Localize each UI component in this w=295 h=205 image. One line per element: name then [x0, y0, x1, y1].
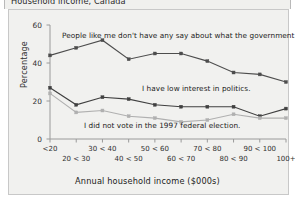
series-line-0 — [50, 40, 286, 82]
data-point-marker — [285, 107, 288, 110]
data-point-marker — [232, 71, 235, 74]
data-point-marker — [285, 117, 288, 120]
data-point-marker — [75, 111, 78, 114]
data-point-marker — [127, 58, 130, 61]
chart-screenshot: Household income, Canada Percentage 0 20… — [0, 0, 295, 205]
x-tick-label: 90 < 100 — [243, 145, 276, 153]
data-point-marker — [127, 115, 130, 118]
data-point-marker — [153, 117, 156, 120]
data-point-marker — [75, 103, 78, 106]
plot-area: Percentage 0 20 40 60 <2020 < 3030 < 404… — [0, 0, 295, 205]
data-point-marker — [285, 81, 288, 84]
x-tick-label: 60 < 70 — [167, 155, 195, 163]
data-point-marker — [232, 113, 235, 116]
x-tick-label: <20 — [43, 145, 58, 153]
x-tick-label: 80 < 90 — [219, 155, 247, 163]
data-point-marker — [180, 105, 183, 108]
data-point-marker — [153, 52, 156, 55]
data-point-marker — [49, 86, 52, 89]
data-point-marker — [258, 117, 261, 120]
x-tick-label: 70 < 80 — [193, 145, 221, 153]
data-point-marker — [101, 109, 104, 112]
data-point-marker — [49, 92, 52, 95]
data-point-marker — [101, 96, 104, 99]
series-annotation-0: People like me don't have any say about … — [62, 31, 295, 40]
series-annotation-2: I did not vote in the 1997 federal elect… — [84, 121, 240, 130]
x-tick-label: 20 < 30 — [62, 155, 90, 163]
data-point-marker — [153, 103, 156, 106]
data-point-marker — [258, 73, 261, 76]
x-tick-label: 40 < 50 — [115, 155, 143, 163]
data-point-marker — [127, 98, 130, 101]
data-point-marker — [232, 105, 235, 108]
x-axis-label: Annual household income ($000s) — [0, 176, 295, 186]
data-point-marker — [206, 60, 209, 63]
data-point-marker — [206, 105, 209, 108]
data-point-marker — [75, 46, 78, 49]
series-line-2 — [50, 93, 286, 122]
x-tick-label: 50 < 60 — [141, 145, 169, 153]
x-tick-label: 30 < 40 — [88, 145, 116, 153]
data-point-marker — [180, 52, 183, 55]
series-annotation-1: I have low interest in politics. — [142, 84, 251, 93]
data-point-marker — [49, 54, 52, 57]
x-tick-label: 100+ — [276, 155, 295, 163]
chart-series — [49, 39, 288, 124]
